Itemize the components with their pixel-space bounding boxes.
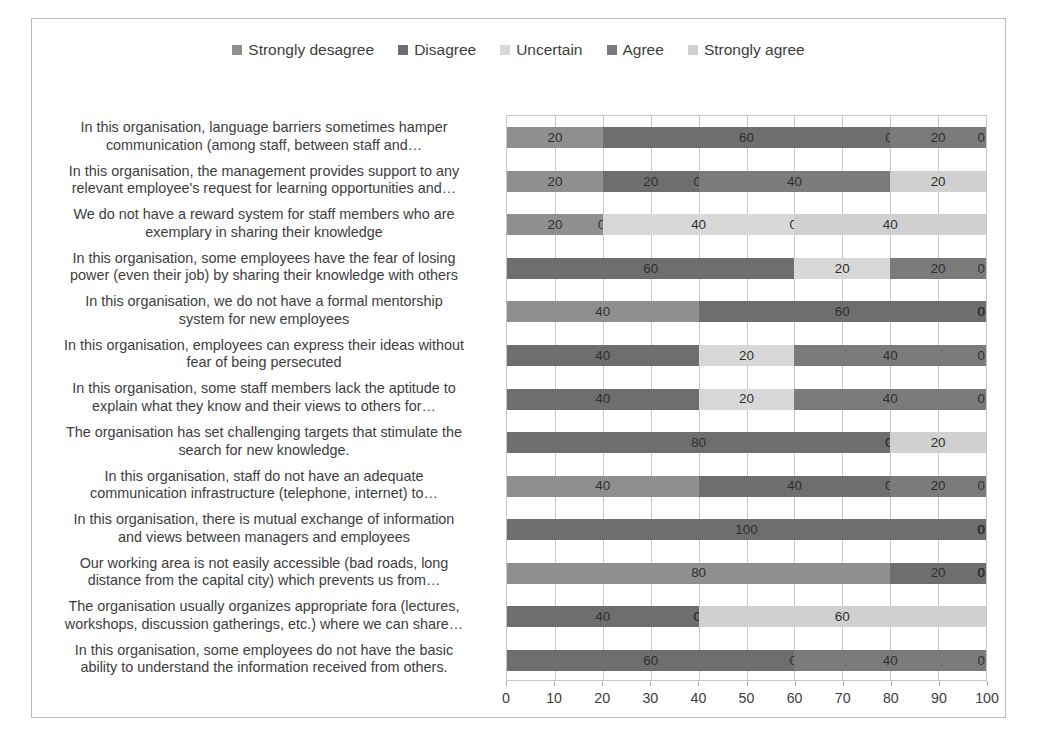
x-axis-tick-label: 70 [835,690,851,706]
bar-segment[interactable]: 40 [794,345,986,366]
x-axis-tick-label: 50 [739,690,755,706]
category-label-line: In this organisation, staff do not have … [105,468,424,486]
bar-segment-value: 0 [978,392,985,405]
bar-segment[interactable]: 20 [890,258,986,279]
bar-segment[interactable]: 60 [603,127,890,148]
bar-segment[interactable]: 100 [507,519,986,540]
bar-segment-value: 40 [595,305,610,318]
bar-segment[interactable]: 40 [794,214,986,235]
bar-segment-value: 0 [978,131,985,144]
bar-segment[interactable]: 60 [699,606,986,627]
bar-row: 20040040 [507,214,986,235]
legend-item-2[interactable]: Uncertain [500,41,582,59]
category-label-line: distance from the capital city) which pr… [88,572,441,590]
bar-segment-value: 40 [595,349,610,362]
bar-segment[interactable]: 60 [699,301,986,322]
bar-segment[interactable]: 40 [794,389,986,410]
legend-item-4[interactable]: Strongly agree [688,41,805,59]
bar-segment-value: 20 [739,349,754,362]
bar-segment[interactable]: 40 [699,171,891,192]
legend-item-3[interactable]: Agree [607,41,664,59]
bar-segment[interactable]: 40 [507,389,699,410]
legend-item-label: Agree [623,41,664,59]
bar-segment[interactable]: 40 [507,345,699,366]
x-axis-tick-label: 20 [594,690,610,706]
bar-segment[interactable]: 20 [699,389,795,410]
bar-segment-value: 40 [883,654,898,667]
bar-segment-value: 0 [978,349,985,362]
category-label-line: The organisation has set challenging tar… [66,424,462,442]
bar-segment[interactable]: 40 [507,301,699,322]
category-label: The organisation usually organizes appro… [32,594,496,638]
bar-segment-value: 40 [883,218,898,231]
x-axis-tick [843,681,844,686]
x-axis-tick-label: 40 [691,690,707,706]
bar-segment[interactable]: 20 [890,563,986,584]
category-label: In this organisation, some employees do … [32,637,496,681]
category-label: In this organisation, language barriers … [32,115,496,159]
category-label-line: ability to understand the information re… [80,659,447,677]
category-label-line: In this organisation, there is mutual ex… [74,511,455,529]
category-label: The organisation has set challenging tar… [32,420,496,464]
bar-segment[interactable]: 20 [794,258,890,279]
bar-segment-value: 40 [883,349,898,362]
bar-segment[interactable]: 20 [890,171,986,192]
bar-segment-value: 20 [547,218,562,231]
bar-segment[interactable]: 20 [699,345,795,366]
bar-segment-value: 40 [883,392,898,405]
category-label: In this organisation, there is mutual ex… [32,507,496,551]
x-axis-tick-label: 60 [787,690,803,706]
bar-segment[interactable]: 20 [890,127,986,148]
x-axis-tick-label: 0 [502,690,510,706]
category-label: In this organisation, some employees hav… [32,246,496,290]
category-label-line: In this organisation, language barriers … [80,119,447,137]
category-labels-column: In this organisation, language barriers … [32,115,504,681]
bar-segment-value: 100 [735,523,757,536]
bars-layer: 2060020020200402020040040060202004060000… [507,116,986,680]
bar-segment[interactable]: 20 [507,171,603,192]
bar-segment[interactable]: 40 [794,650,986,671]
bar-segment-value: 80 [691,566,706,579]
category-label-line: fear of being persecuted [186,354,341,372]
x-axis-tick [506,681,507,686]
legend-item-1[interactable]: Disagree [398,41,476,59]
bar-segment[interactable]: 20 [603,171,699,192]
x-axis-tick [939,681,940,686]
x-axis-tick-label: 90 [931,690,947,706]
plot-wrapper: In this organisation, language barriers … [32,89,1007,714]
bar-segment[interactable]: 80 [507,432,890,453]
bar-segment[interactable]: 80 [507,563,890,584]
bar-segment[interactable]: 40 [507,476,699,497]
bar-segment-value: 40 [595,610,610,623]
bar-segment[interactable]: 60 [507,258,794,279]
bar-segment-value: 20 [739,392,754,405]
bar-segment-value: 20 [931,436,946,449]
bar-segment[interactable]: 20 [890,432,986,453]
bar-segment-value: 20 [547,175,562,188]
bar-segment-value: 20 [931,131,946,144]
bar-row: 0400060 [507,606,986,627]
bar-row: 202004020 [507,171,986,192]
bar-segment[interactable]: 40 [699,476,891,497]
bar-segment-value: 0 [978,305,985,318]
bar-segment-value: 20 [835,262,850,275]
bar-segment[interactable]: 60 [507,650,794,671]
legend-item-0[interactable]: Strongly desagree [232,41,374,59]
x-axis-tick [554,681,555,686]
category-label-line: In this organisation, employees can expr… [64,337,464,355]
bar-segment[interactable]: 20 [507,127,603,148]
category-label: In this organisation, employees can expr… [32,333,496,377]
category-label-line: power (even their job) by sharing their … [70,267,458,285]
bar-segment[interactable]: 40 [603,214,795,235]
bar-segment[interactable]: 20 [507,214,603,235]
bar-segment[interactable]: 20 [890,476,986,497]
bar-row: 20600200 [507,127,986,148]
bar-segment-value: 0 [978,566,985,579]
category-label-line: relevant employee's request for learning… [72,180,456,198]
bar-segment-value: 0 [978,479,985,492]
category-label: In this organisation, we do not have a f… [32,289,496,333]
bar-segment-value: 0 [978,654,985,667]
bar-segment[interactable]: 40 [507,606,699,627]
x-axis-tick-label: 10 [546,690,562,706]
bar-segment-value: 20 [643,175,658,188]
